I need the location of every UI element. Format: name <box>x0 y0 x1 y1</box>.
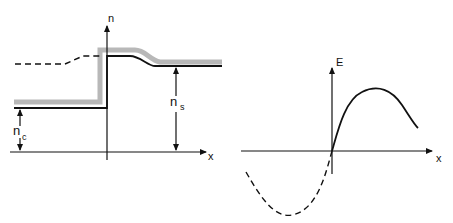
field-curve-solid <box>332 88 418 151</box>
x-axis-label: x <box>436 152 442 164</box>
y-axis-label: n <box>108 12 114 24</box>
nc-label: n <box>13 123 20 138</box>
figure-canvas: n x n c n s E x <box>0 0 453 223</box>
nc-subscript: c <box>22 132 27 142</box>
y-axis-label: E <box>336 56 343 68</box>
dashed-profile <box>15 56 100 64</box>
field-curve-dashed <box>246 151 332 215</box>
index-profile-diagram: n x n c n s <box>10 12 222 162</box>
shaded-band <box>14 50 222 102</box>
ns-label: n <box>170 94 177 109</box>
field-profile-diagram: E x <box>241 56 442 215</box>
x-axis-label: x <box>208 150 214 162</box>
ns-subscript: s <box>180 102 185 112</box>
